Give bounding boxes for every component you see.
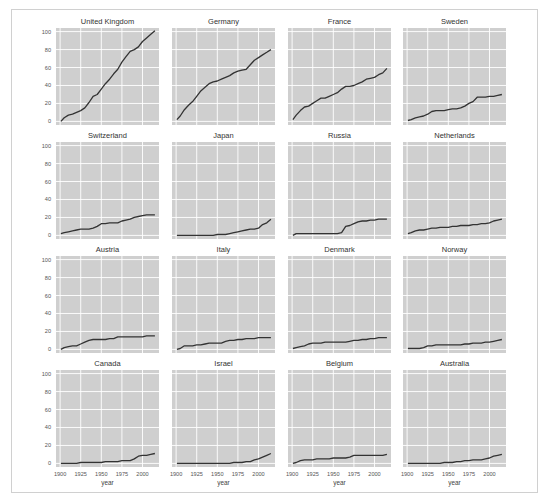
panel-france: France [288,17,391,125]
y-tick-label: 20 [45,328,51,334]
axes-background [403,370,506,467]
panel-italy: Italy [172,245,275,353]
x-tick-label: 1975 [232,471,244,477]
x-tick-label: 1975 [348,471,360,477]
y-tick-label: 0 [48,460,51,466]
x-tick-label: 1950 [327,471,339,477]
y-tick-label: 100 [42,29,51,35]
panel-norway: Norway [403,245,506,353]
x-tick-label: 2000 [368,471,380,477]
axes-background [172,370,275,467]
axes-background [288,370,391,467]
panel-israel: Israel19001925195019752000year [170,359,275,487]
x-tick-label: 1950 [211,471,223,477]
x-tick-label: 1925 [190,471,202,477]
y-tick-label: 60 [45,293,51,299]
x-axis-label: year [448,479,461,487]
y-tick-label: 80 [45,389,51,395]
axes-background [56,28,159,125]
axes-background [403,28,506,125]
x-axis-label: year [217,479,230,487]
y-tick-label: 80 [45,47,51,53]
y-tick-label: 100 [42,143,51,149]
axes-background [403,142,506,239]
panel-russia: Russia [288,131,391,239]
x-axis-label: year [333,479,346,487]
panel-canada: Canada02040608010019001925195019752000ye… [42,359,159,487]
panel-title: Israel [214,359,233,368]
panel-title: France [328,17,351,26]
x-tick-label: 2000 [252,471,264,477]
y-tick-label: 60 [45,407,51,413]
y-tick-label: 80 [45,275,51,281]
panel-title: Russia [328,131,352,140]
axes-background [56,370,159,467]
panel-title: Australia [440,359,470,368]
y-tick-label: 0 [48,118,51,124]
panel-belgium: Belgium19001925195019752000year [286,359,391,487]
panel-netherlands: Netherlands [403,131,506,239]
y-tick-label: 0 [48,232,51,238]
axes-background [172,28,275,125]
y-tick-label: 0 [48,346,51,352]
panel-united-kingdom: United Kingdom020406080100 [42,17,159,125]
x-tick-label: 1900 [54,471,66,477]
axes-background [288,142,391,239]
x-tick-label: 1925 [306,471,318,477]
x-tick-label: 2000 [136,471,148,477]
panel-title: United Kingdom [81,17,134,26]
panel-switzerland: Switzerland020406080100 [42,131,159,239]
panel-denmark: Denmark [288,245,391,353]
x-tick-label: 1900 [401,471,413,477]
y-tick-label: 80 [45,161,51,167]
y-tick-label: 40 [45,424,51,430]
x-tick-label: 1950 [442,471,454,477]
axes-background [403,256,506,353]
panel-title: Sweden [441,17,468,26]
panel-title: Canada [94,359,121,368]
panel-sweden: Sweden [403,17,506,125]
y-tick-label: 20 [45,214,51,220]
y-tick-label: 40 [45,196,51,202]
panel-title: Germany [208,17,239,26]
x-tick-label: 1975 [463,471,475,477]
x-tick-label: 1950 [95,471,107,477]
x-tick-label: 1975 [116,471,128,477]
panel-title: Netherlands [434,131,475,140]
panel-japan: Japan [172,131,275,239]
small-multiples-chart: United Kingdom020406080100GermanyFranceS… [0,0,547,504]
x-tick-label: 1925 [74,471,86,477]
y-tick-label: 100 [42,257,51,263]
y-tick-label: 40 [45,82,51,88]
y-tick-label: 20 [45,100,51,106]
panel-title: Denmark [324,245,355,254]
panel-title: Norway [442,245,468,254]
x-axis-label: year [101,479,114,487]
x-tick-label: 1900 [286,471,298,477]
y-tick-label: 20 [45,442,51,448]
panel-title: Belgium [326,359,353,368]
panel-title: Switzerland [88,131,127,140]
y-tick-label: 40 [45,310,51,316]
panel-title: Austria [96,245,120,254]
y-tick-label: 100 [42,371,51,377]
panel-germany: Germany [172,17,275,125]
x-tick-label: 2000 [483,471,495,477]
panel-australia: Australia19001925195019752000year [401,359,506,487]
axes-background [56,142,159,239]
y-tick-label: 60 [45,65,51,71]
x-tick-label: 1925 [421,471,433,477]
panel-title: Japan [213,131,233,140]
x-tick-label: 1900 [170,471,182,477]
y-tick-label: 60 [45,179,51,185]
axes-background [172,256,275,353]
panel-austria: Austria020406080100 [42,245,159,353]
panel-title: Italy [217,245,231,254]
axes-background [172,142,275,239]
